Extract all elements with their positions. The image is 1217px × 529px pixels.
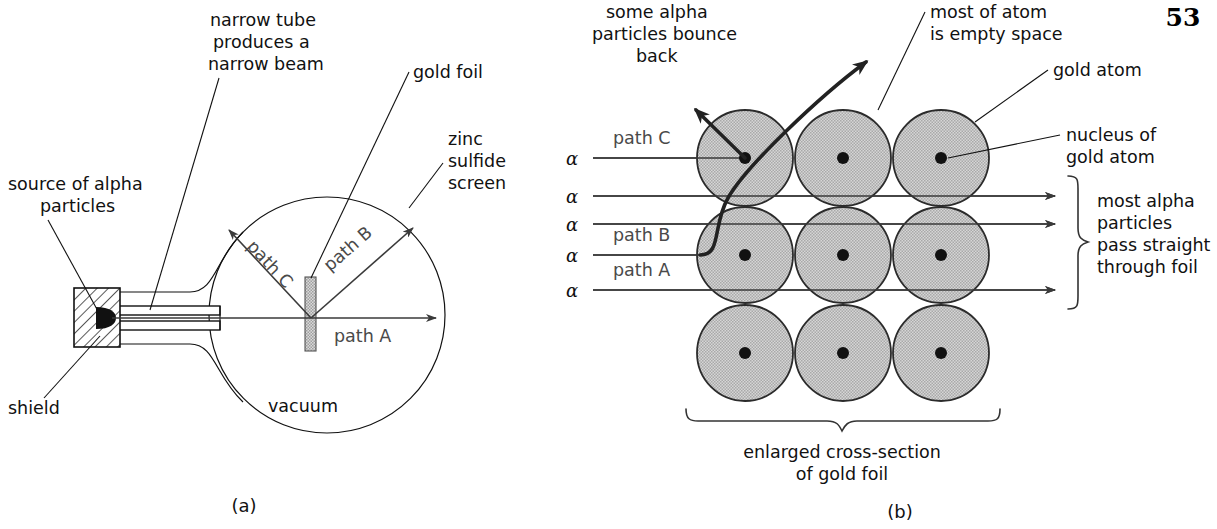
nucleus-of-gold-atom: [837, 347, 849, 359]
panel-a-caption: (a): [231, 495, 256, 516]
nucleus-of-gold-atom: [935, 152, 947, 164]
zinc-sulfide-label-line1: zinc: [448, 129, 483, 149]
page-number: 53: [1166, 3, 1201, 32]
bounce-back-label-line1: some alpha: [606, 2, 708, 22]
gold-foil-label: gold foil: [413, 62, 483, 82]
empty-space-label-line2: is empty space: [930, 24, 1063, 44]
panel-b-path-b-label: path B: [613, 225, 670, 245]
nucleus-of-gold-atom: [739, 347, 751, 359]
alpha-source-label-line1: source of alpha: [8, 174, 143, 194]
alpha-source-label-line2: particles: [40, 196, 115, 216]
bounce-back-label-line2: particles bounce: [592, 24, 737, 44]
alpha-symbol: α: [566, 280, 578, 301]
narrow-tube-lower-wall: [118, 321, 220, 330]
bounce-back-label-line3: back: [636, 46, 678, 66]
enlarged-cross-section-label-line1: enlarged cross-section: [743, 442, 941, 462]
figure-canvas: 53 path C path B path A vacuum narrow: [0, 0, 1217, 529]
nucleus-of-gold-atom: [935, 249, 947, 261]
nucleus-of-gold-atom: [837, 152, 849, 164]
most-pass-label-line3: pass straight: [1097, 235, 1211, 255]
nucleus-label-line2: gold atom: [1066, 147, 1155, 167]
nucleus-of-gold-atom: [935, 347, 947, 359]
most-pass-label-line2: particles: [1097, 213, 1172, 233]
nucleus-of-gold-atom: [739, 249, 751, 261]
alpha-symbol: α: [566, 214, 578, 235]
empty-space-label-line1: most of atom: [930, 2, 1047, 22]
zinc-sulfide-label-line2: sulfide: [448, 151, 506, 171]
nucleus-label-line1: nucleus of: [1066, 125, 1157, 145]
rutherford-experiment-figure: 53 path C path B path A vacuum narrow: [0, 0, 1217, 529]
narrow-tube-upper-wall: [118, 306, 220, 315]
alpha-symbol: α: [566, 148, 578, 169]
nucleus-of-gold-atom: [837, 249, 849, 261]
narrow-tube-label-line3: narrow beam: [208, 54, 324, 74]
panel-b-path-a-label: path A: [613, 260, 670, 280]
narrow-tube-label-line2: produces a: [213, 32, 310, 52]
vacuum-label: vacuum: [268, 396, 338, 416]
most-pass-label-line4: through foil: [1097, 257, 1198, 277]
gold-atom-label: gold atom: [1053, 60, 1142, 80]
alpha-symbol: α: [566, 186, 578, 207]
shield-label: shield: [8, 398, 60, 418]
panel-b-path-c-label: path C: [613, 128, 671, 148]
narrow-tube-label-line1: narrow tube: [210, 10, 316, 30]
panel-a-path-a-label: path A: [334, 326, 391, 346]
zinc-sulfide-label-line3: screen: [448, 173, 506, 193]
alpha-symbol: α: [566, 245, 578, 266]
panel-b-caption: (b): [887, 501, 912, 522]
most-pass-label-line1: most alpha: [1097, 191, 1195, 211]
enlarged-cross-section-label-line2: of gold foil: [796, 464, 888, 484]
